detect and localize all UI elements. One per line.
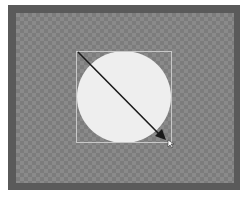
drawing-overlay bbox=[0, 0, 243, 197]
